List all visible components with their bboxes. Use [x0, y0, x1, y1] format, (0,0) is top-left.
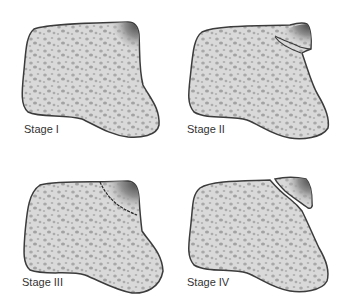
panel-stage-4: Stage IV — [172, 153, 344, 306]
panel-stage-3: Stage III — [0, 153, 172, 306]
stage-label: Stage I — [24, 123, 59, 135]
panel-stage-1: Stage I — [0, 0, 172, 153]
stage-label: Stage II — [187, 123, 225, 135]
panel-stage-2: Stage II — [172, 0, 344, 153]
stage-label: Stage IV — [187, 276, 229, 288]
stage-label: Stage III — [22, 276, 63, 288]
